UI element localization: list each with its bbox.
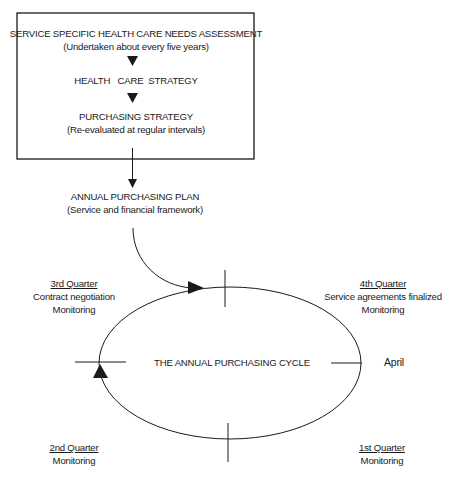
q4-title: 4th Quarter <box>324 277 442 290</box>
arrow-right-icon <box>188 281 204 294</box>
q3-block: 3rd Quarter Contract negotiation Monitor… <box>33 277 115 316</box>
q2-line: Monitoring <box>50 454 99 467</box>
health-care-strategy-label: HEALTH CARE STRATEGY <box>74 74 198 87</box>
q3-line: Monitoring <box>33 303 115 316</box>
q1-block: 1st Quarter Monitoring <box>359 441 405 467</box>
q1-line: Monitoring <box>359 454 405 467</box>
april-label: April <box>384 356 404 369</box>
curved-connector <box>133 228 192 288</box>
arrow-down-icon <box>127 93 138 103</box>
q4-block: 4th Quarter Service agreements finalized… <box>324 277 442 316</box>
needs-assessment-note: (Undertaken about every five years) <box>63 40 209 53</box>
annual-purchasing-plan-subtitle: (Service and financial framework) <box>67 203 203 216</box>
q3-line: Contract negotiation <box>33 290 115 303</box>
q4-line: Service agreements finalized <box>324 290 442 303</box>
purchasing-strategy-label: PURCHASING STRATEGY <box>79 110 193 123</box>
needs-assessment-label: SERVICE SPECIFIC HEALTH CARE NEEDS ASSES… <box>10 27 262 40</box>
arrow-up-icon <box>93 364 108 378</box>
q2-block: 2nd Quarter Monitoring <box>50 441 99 467</box>
purchasing-strategy-note: (Re-evaluated at regular intervals) <box>67 123 205 136</box>
annual-purchasing-plan-title: ANNUAL PURCHASING PLAN <box>71 190 200 203</box>
diagram-canvas <box>0 0 456 479</box>
q2-title: 2nd Quarter <box>50 441 99 454</box>
q1-title: 1st Quarter <box>359 441 405 454</box>
q3-title: 3rd Quarter <box>33 277 115 290</box>
arrow-down-icon <box>128 179 137 188</box>
arrow-down-icon <box>127 56 138 66</box>
q4-line: Monitoring <box>324 303 442 316</box>
cycle-title: THE ANNUAL PURCHASING CYCLE <box>154 356 310 369</box>
